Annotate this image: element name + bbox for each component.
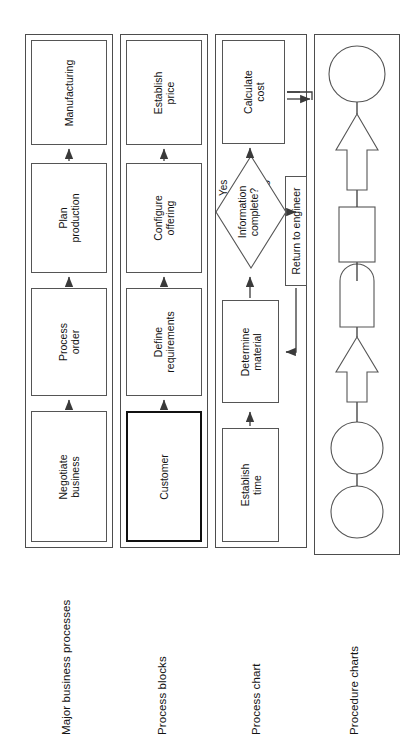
row-label-process-blocks: Process blocks bbox=[156, 656, 168, 735]
node-establish-time[interactable]: Establishtime bbox=[222, 428, 279, 542]
node-determine-material[interactable]: Determinematerial bbox=[222, 300, 279, 403]
node-manufacturing-label: Manufacturing bbox=[63, 59, 75, 126]
node-establish-price[interactable]: Establishprice bbox=[126, 40, 202, 145]
node-process-order[interactable]: Processorder bbox=[31, 288, 107, 396]
node-negotiate-business-label: Negotiatebusiness bbox=[57, 454, 81, 499]
node-configure-offering-label: Configureoffering bbox=[152, 195, 176, 241]
row-label-major-business-processes: Major business processes bbox=[60, 600, 72, 735]
node-define-requirements[interactable]: Definerequirements bbox=[126, 288, 202, 396]
diagram-canvas: Manufacturing Planproduction Processorde… bbox=[0, 0, 416, 743]
node-return-to-engineer-label: Return to engineer bbox=[290, 188, 302, 275]
node-plan-production[interactable]: Planproduction bbox=[31, 163, 107, 273]
node-manufacturing[interactable]: Manufacturing bbox=[31, 40, 107, 145]
node-calculate-cost[interactable]: Calculatecost bbox=[222, 40, 285, 144]
node-determine-material-label: Determinematerial bbox=[239, 327, 263, 375]
node-process-order-label: Processorder bbox=[57, 323, 81, 361]
node-plan-production-label: Planproduction bbox=[57, 193, 81, 242]
node-return-to-engineer[interactable]: Return to engineer bbox=[285, 176, 307, 286]
node-customer[interactable]: Customer bbox=[126, 411, 202, 542]
node-negotiate-business[interactable]: Negotiatebusiness bbox=[31, 411, 107, 542]
edge-label-no: No bbox=[261, 180, 272, 193]
row-label-procedure-charts: Procedure charts bbox=[348, 646, 360, 735]
edge-label-yes: Yes bbox=[218, 180, 229, 196]
node-customer-label: Customer bbox=[158, 454, 170, 500]
node-define-requirements-label: Definerequirements bbox=[152, 311, 176, 372]
node-configure-offering[interactable]: Configureoffering bbox=[126, 163, 202, 273]
row-label-process-chart: Process chart bbox=[250, 663, 262, 735]
node-establish-price-label: Establishprice bbox=[152, 71, 176, 114]
node-calculate-cost-label: Calculatecost bbox=[242, 70, 266, 114]
node-establish-time-label: Establishtime bbox=[239, 464, 263, 507]
lane-procedure-charts bbox=[314, 34, 400, 555]
